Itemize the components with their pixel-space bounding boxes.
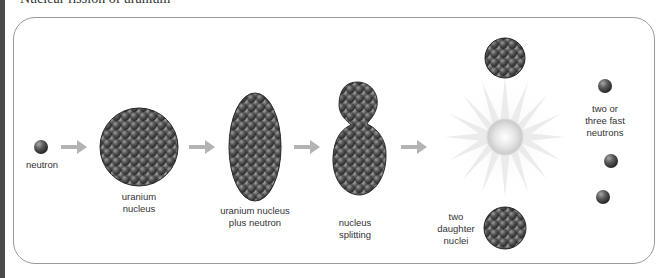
daughter-nucleus-top-icon [485,38,525,78]
daughter-nucleus-bottom-icon [484,207,526,249]
label-fast-neutrons: two or three fast neutrons [580,103,630,139]
label-uranium-plus-neutron: uranium nucleus plus neutron [215,205,295,229]
energy-burst-icon [445,77,565,197]
splitting-nucleus-icon [333,82,386,195]
label-neutron: neutron [22,159,62,171]
fast-neutron-icon [596,79,618,204]
neutron-icon [34,140,48,154]
label-uranium-nucleus: uranium nucleus [109,191,169,215]
label-daughter-nuclei: two daughter nuclei [433,211,479,247]
elongated-nucleus-icon [229,93,281,201]
label-nucleus-splitting: nucleus splitting [330,217,380,241]
uranium-nucleus-icon [100,108,178,186]
